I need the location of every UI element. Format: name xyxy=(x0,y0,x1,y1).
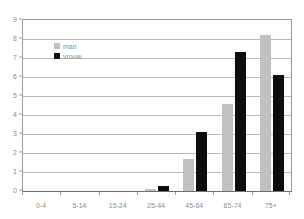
y-tick-label: 5 xyxy=(13,92,17,99)
x-tick-mark xyxy=(99,192,100,195)
bar-man xyxy=(222,104,233,191)
y-tick-label: 8 xyxy=(13,35,17,42)
y-axis: 0123456789 xyxy=(0,0,22,219)
legend-label-man: man xyxy=(63,43,77,50)
bar-vrouw xyxy=(235,52,246,191)
legend-label-vrouw: vrouw xyxy=(63,53,82,60)
bar-group xyxy=(176,20,214,191)
bar-vrouw xyxy=(273,75,284,191)
bar-vrouw xyxy=(158,186,169,191)
x-tick-mark xyxy=(22,192,23,195)
bar-group xyxy=(214,20,252,191)
x-tick-label: 5-14 xyxy=(72,202,86,210)
legend-item-man: man xyxy=(54,42,82,50)
x-tick-mark xyxy=(137,192,138,195)
bar-chart: 0123456789 man vrouw 0-45-1415-2425-4445… xyxy=(0,0,304,219)
legend: man vrouw xyxy=(54,42,82,60)
bar-man xyxy=(260,35,271,191)
y-tick-label: 3 xyxy=(13,130,17,137)
bar-man xyxy=(183,159,194,191)
bar-group xyxy=(138,20,176,191)
y-tick-label: 9 xyxy=(13,16,17,23)
x-axis: 0-45-1415-2425-4445-6465-7475+ xyxy=(22,192,292,219)
bar-group xyxy=(100,20,138,191)
bar-vrouw xyxy=(196,132,207,191)
bar-man xyxy=(145,189,156,191)
x-tick-mark xyxy=(289,192,290,195)
bar-group xyxy=(253,20,291,191)
x-tick-label: 75+ xyxy=(265,202,277,210)
x-tick-label: 0-4 xyxy=(36,202,46,210)
x-tick-mark xyxy=(60,192,61,195)
x-tick-mark xyxy=(175,192,176,195)
x-tick-label: 45-64 xyxy=(185,202,203,210)
legend-item-vrouw: vrouw xyxy=(54,52,82,60)
x-tick-mark xyxy=(213,192,214,195)
y-tick-label: 4 xyxy=(13,111,17,118)
x-tick-mark xyxy=(252,192,253,195)
y-tick-label: 0 xyxy=(13,187,17,194)
x-tick-label: 25-44 xyxy=(147,202,165,210)
y-tick-label: 2 xyxy=(13,149,17,156)
y-tick-label: 7 xyxy=(13,54,17,61)
y-tick-label: 6 xyxy=(13,73,17,80)
x-tick-label: 65-74 xyxy=(224,202,242,210)
plot-area: man vrouw xyxy=(22,19,292,192)
legend-swatch-icon-man xyxy=(54,43,60,49)
x-tick-label: 15-24 xyxy=(109,202,127,210)
y-tick-label: 1 xyxy=(13,168,17,175)
legend-swatch-icon-vrouw xyxy=(54,53,60,59)
